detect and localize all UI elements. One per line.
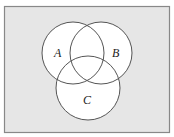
set-c-label: C [83,93,92,107]
set-b-label: B [112,46,120,60]
set-a-label: A [53,46,62,60]
venn-diagram: A B C [0,0,174,137]
